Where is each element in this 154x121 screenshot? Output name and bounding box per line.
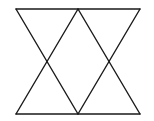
diagram-canvas: [0, 0, 154, 121]
geometric-figure: [0, 0, 154, 121]
line-segments: [16, 9, 140, 114]
